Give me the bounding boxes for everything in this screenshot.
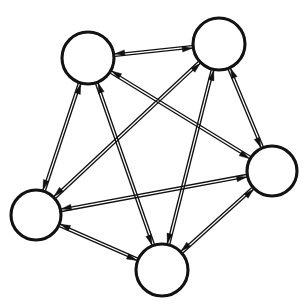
edge-arrow (45, 84, 80, 191)
graph-node[interactable] (136, 244, 188, 296)
edge-arrow (59, 227, 136, 261)
graph-node[interactable] (62, 32, 114, 84)
edge-arrow (170, 71, 214, 245)
graph-edge (110, 71, 250, 158)
edge-arrow (181, 187, 252, 251)
edge-arrow (43, 83, 78, 190)
edge-arrow (231, 68, 264, 146)
edge-arrow (115, 46, 192, 56)
graph-node[interactable] (11, 190, 61, 240)
edge-arrow (61, 174, 246, 209)
graph-edge (115, 46, 193, 57)
edge-arrow (62, 176, 247, 211)
edge-arrow (228, 69, 261, 147)
graph-edge (228, 68, 263, 147)
graph-node[interactable] (247, 146, 297, 196)
edge-arrow (96, 84, 152, 245)
edge-arrow (110, 73, 249, 158)
graph-edge (61, 174, 246, 211)
edge-arrow (115, 46, 192, 56)
edge-arrow (60, 224, 137, 258)
graph-edge (43, 83, 81, 191)
graph-node[interactable] (193, 18, 245, 70)
edge-arrow (98, 83, 154, 244)
edge-arrow (167, 70, 211, 244)
edge-arrow (112, 71, 251, 156)
graph-canvas (0, 0, 307, 304)
graph-figure (0, 0, 307, 304)
graph-edge (59, 224, 137, 260)
graph-edge (167, 70, 214, 244)
edge-arrow (183, 189, 254, 253)
graph-edge (181, 187, 253, 252)
graph-edge (96, 83, 155, 245)
